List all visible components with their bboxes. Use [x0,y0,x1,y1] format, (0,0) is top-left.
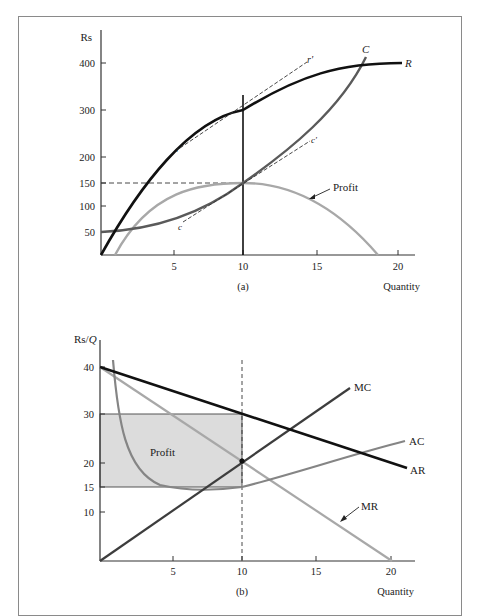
profit-curve-label: Profit [333,181,358,193]
chart-a-y-tick-100: 100 [79,201,95,212]
chart-a-x-tick-10: 10 [238,261,249,272]
chart-b-y-tick-15: 15 [84,482,95,493]
chart-a: Rs 400 300 200 150 100 50 5 10 15 20 (a)… [79,30,420,293]
marginal-cost-label: MC [354,381,371,393]
chart-b-x-tick-5: 5 [170,566,175,577]
chart-b-x-tick-10: 10 [237,566,248,577]
tangent-r-label: r [176,144,180,154]
revenue-curve-label: R [404,57,412,69]
chart-a-y-ticks [101,63,106,232]
chart-a-y-label: Rs [80,31,92,43]
chart-b-y-tick-20: 20 [84,458,95,469]
chart-b-y-tick-30: 30 [84,409,95,420]
cost-curve-c [101,57,366,232]
profit-area-label: Profit [150,446,175,458]
tangent-c-prime-label: c' [311,135,318,145]
chart-b: Profit Rs/Q 40 30 20 15 10 5 10 15 20 (b… [74,333,426,598]
profit-curve [115,183,378,255]
chart-a-y-tick-50: 50 [85,227,96,238]
chart-b-x-tick-15: 15 [311,566,322,577]
chart-b-y-tick-40: 40 [84,362,95,373]
average-cost-label: AC [409,435,424,447]
tangent-r-prime-label: r' [307,54,314,65]
chart-b-panel-label: (b) [236,586,249,598]
chart-b-x-ticks [173,556,391,561]
chart-b-x-tick-20: 20 [386,566,397,577]
chart-a-x-tick-20: 20 [393,261,404,272]
chart-a-panel-label: (a) [237,281,249,293]
chart-a-y-tick-200: 200 [79,152,95,163]
cost-curve-label: C [362,43,370,55]
chart-a-y-tick-400: 400 [79,58,95,69]
chart-a-y-tick-150: 150 [79,178,95,189]
tangent-c-label: c [178,222,182,232]
mc-mr-intersection-point [239,458,244,463]
chart-b-y-tick-10: 10 [84,507,95,518]
chart-a-y-tick-300: 300 [79,105,95,116]
average-revenue-label: AR [410,464,426,476]
arrow-head-icon [340,515,347,522]
tangent-c [183,141,310,222]
chart-a-x-tick-5: 5 [171,261,176,272]
chart-a-x-ticks [174,250,398,255]
marginal-revenue-label: MR [361,500,379,512]
chart-a-x-tick-15: 15 [312,261,323,272]
chart-a-x-label: Quantity [383,281,420,292]
chart-b-y-label: Rs/Q [74,333,97,345]
chart-b-x-label: Quantity [377,586,414,597]
